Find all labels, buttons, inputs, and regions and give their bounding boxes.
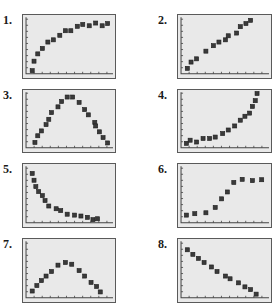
scatter-plot-6 <box>177 163 272 228</box>
data-point <box>100 24 104 28</box>
scatter-plot-3 <box>22 89 116 153</box>
data-point <box>43 199 47 203</box>
scatter-plot-2 <box>177 14 272 79</box>
data-point <box>71 95 75 99</box>
plot-canvas <box>178 239 271 302</box>
data-point <box>75 24 79 28</box>
data-point <box>56 105 60 109</box>
data-point <box>255 91 259 95</box>
data-point <box>238 25 242 29</box>
data-point <box>215 269 219 273</box>
data-point <box>39 129 43 133</box>
plot-canvas <box>178 90 271 152</box>
plot-canvas <box>178 164 271 227</box>
data-point <box>202 260 206 264</box>
plot-number-label: 7. <box>3 237 12 252</box>
data-point <box>244 22 248 26</box>
data-point <box>65 95 69 99</box>
scatter-plot-8 <box>177 238 272 303</box>
data-point <box>83 274 87 278</box>
data-point <box>238 118 242 122</box>
data-point <box>98 290 102 294</box>
data-point <box>63 260 67 264</box>
data-point <box>225 190 229 194</box>
plot-canvas <box>23 90 115 152</box>
data-point <box>223 274 227 278</box>
data-point <box>196 256 200 260</box>
data-point <box>236 281 240 285</box>
plot-canvas <box>23 164 115 227</box>
data-point <box>47 204 51 208</box>
data-point <box>94 21 98 25</box>
data-point <box>59 209 63 213</box>
data-point <box>73 213 77 217</box>
data-point <box>56 263 60 267</box>
data-point <box>95 217 99 221</box>
axes <box>181 241 269 298</box>
data-point <box>228 277 232 281</box>
data-point <box>40 194 44 198</box>
plot-number-label: 2. <box>158 13 167 28</box>
axes <box>181 17 269 74</box>
data-point <box>49 111 53 115</box>
data-point <box>217 40 221 44</box>
data-point <box>223 38 227 42</box>
data-point <box>94 124 98 128</box>
plot-canvas <box>178 15 271 78</box>
data-point <box>204 49 208 53</box>
data-point <box>250 179 254 183</box>
data-point <box>248 111 252 115</box>
data-point <box>69 29 73 33</box>
data-point <box>30 69 34 73</box>
axis-ticks <box>181 19 262 74</box>
plot-number-label: 3. <box>3 88 12 103</box>
data-point <box>81 22 85 26</box>
data-point <box>83 108 87 112</box>
scatter-plot-4 <box>177 89 272 153</box>
data-point <box>204 211 208 215</box>
data-point <box>260 178 264 182</box>
data-point <box>213 135 217 139</box>
data-point <box>195 140 199 144</box>
data-point <box>106 141 110 145</box>
data-point <box>51 38 55 42</box>
data-point <box>235 31 239 35</box>
data-point <box>250 104 254 108</box>
axis-ticks <box>26 243 107 298</box>
data-point <box>46 40 50 44</box>
data-point <box>201 136 205 140</box>
data-point <box>213 205 217 209</box>
data-point <box>240 177 244 181</box>
data-point <box>211 44 215 48</box>
data-point <box>226 34 230 38</box>
data-point <box>77 269 81 273</box>
data-point <box>87 24 91 28</box>
axis-ticks <box>26 19 107 74</box>
data-point <box>253 99 257 103</box>
data-point <box>49 269 53 273</box>
data-point <box>233 124 237 128</box>
data-point <box>191 252 195 256</box>
plot-canvas <box>23 239 115 302</box>
data-point <box>208 136 212 140</box>
data-point <box>54 207 58 211</box>
data-point <box>184 213 188 217</box>
data-point <box>188 138 192 142</box>
plot-number-label: 4. <box>158 88 167 103</box>
data-point <box>254 292 258 296</box>
data-point <box>44 123 48 127</box>
axes <box>26 92 113 148</box>
plot-number-label: 5. <box>3 162 12 177</box>
scatter-plot-1 <box>22 14 116 79</box>
data-point <box>70 262 74 266</box>
data-point <box>34 185 38 189</box>
data-point <box>189 60 193 64</box>
data-point <box>32 178 36 182</box>
data-point <box>37 190 41 194</box>
data-point <box>47 117 51 121</box>
plot-number-label: 1. <box>3 13 12 28</box>
data-point <box>63 29 67 33</box>
data-point <box>32 59 36 63</box>
data-point <box>193 212 197 216</box>
data-point <box>40 46 44 50</box>
